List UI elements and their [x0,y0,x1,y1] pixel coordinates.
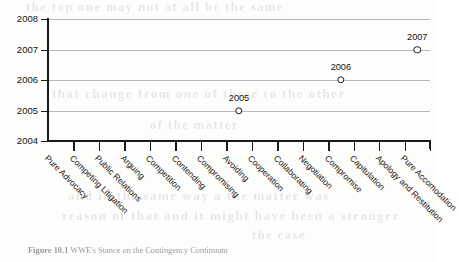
figure-caption: Figure 10.1 WWE's Stance on the Continge… [28,246,228,255]
y-axis-label: 2006 [0,74,38,85]
x-axis-tick [150,142,151,151]
data-point-label: 2006 [331,62,351,72]
y-axis-tick [41,19,48,20]
y-axis-tick [41,80,48,81]
y-axis-tick [41,50,48,51]
y-axis-label: 2007 [0,44,38,55]
y-axis-label: 2004 [0,135,38,146]
figure-caption-text: WWE's Stance on the Contingency Continuu… [70,246,228,255]
x-axis-tick [328,142,329,151]
y-axis-label: 2008 [0,13,38,24]
x-axis-tick [430,142,431,151]
x-axis-tick [201,142,202,151]
x-axis-line [47,140,431,142]
x-axis-tick [379,142,380,151]
x-axis-tick [303,142,304,151]
data-point-label: 2005 [229,93,249,103]
gridline [48,80,430,81]
plot-area [48,19,430,141]
x-axis-tick [226,142,227,151]
gridline [48,19,430,20]
x-axis-tick [124,142,125,151]
x-axis-tick [73,142,74,151]
y-axis-label: 2005 [0,105,38,116]
figure-caption-number: Figure 10.1 [28,246,68,255]
y-axis-tick [41,111,48,112]
x-axis-tick [252,142,253,151]
x-axis-tick [354,142,355,151]
x-axis-tick [99,142,100,151]
x-axis-tick [277,142,278,151]
x-axis-tick [405,142,406,151]
x-axis-tick [175,142,176,151]
gridline [48,50,430,51]
y-axis-tick [41,141,48,142]
data-point-label: 2007 [407,32,427,42]
